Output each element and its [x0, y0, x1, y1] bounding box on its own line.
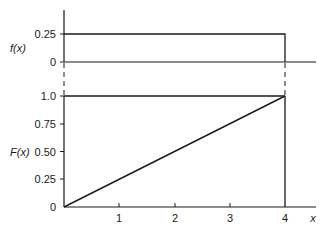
bottom-plot-cdf: 1.0 0.75 0.50 0.25 0 F(x) 1 2 3 4 x: [10, 90, 316, 224]
top-ytick-label-025: 0.25: [35, 28, 56, 40]
bottom-ylabel: F(x): [10, 146, 30, 158]
dashed-guides: [64, 63, 285, 96]
bottom-ytick-label-025: 0.25: [35, 173, 56, 185]
bottom-xtick-label-1: 1: [116, 212, 122, 224]
bottom-ytick-label-075: 0.75: [35, 118, 56, 130]
bottom-xtick-label-3: 3: [227, 212, 233, 224]
top-ylabel: f(x): [10, 42, 26, 54]
figure: 0.25 0 f(x) 1.0 0.75 0.50 0.25 0 F(x) 1 …: [0, 0, 325, 229]
cdf-line: [64, 96, 285, 207]
bottom-xtick-label-4: 4: [282, 212, 288, 224]
bottom-xlabel: x: [309, 212, 316, 224]
bottom-xtick-label-2: 2: [172, 212, 178, 224]
pdf-line: [64, 34, 285, 62]
top-ytick-label-0: 0: [50, 56, 56, 68]
bottom-ytick-label-050: 0.50: [35, 146, 56, 158]
bottom-ytick-label-100: 1.0: [41, 90, 56, 102]
top-plot-pdf: 0.25 0 f(x): [10, 10, 316, 68]
bottom-ytick-label-0: 0: [50, 201, 56, 213]
